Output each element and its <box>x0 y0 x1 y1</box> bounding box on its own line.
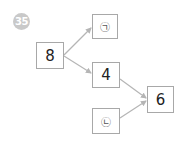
box-middle: 4 <box>92 62 120 88</box>
arrow-blank-b-to-6 <box>120 101 146 118</box>
box-result: 6 <box>147 86 174 113</box>
blank-b-marker: ㉡ <box>101 114 111 129</box>
arrow-4-to-6 <box>120 79 146 98</box>
box-blank-a[interactable]: ㉠ <box>92 14 118 39</box>
box-middle-label: 4 <box>101 66 111 84</box>
box-blank-b[interactable]: ㉡ <box>92 108 120 134</box>
arrow-8-to-4 <box>64 56 91 73</box>
box-result-label: 6 <box>156 91 166 109</box>
arrow-8-to-blank-a <box>64 28 91 55</box>
blank-a-marker: ㉠ <box>100 19 110 34</box>
box-start: 8 <box>36 42 64 69</box>
box-start-label: 8 <box>45 47 55 65</box>
